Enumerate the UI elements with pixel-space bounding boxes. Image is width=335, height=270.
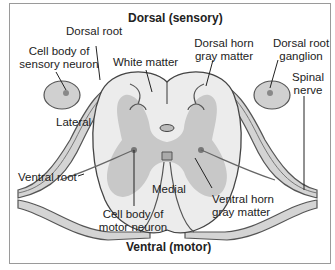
central-canal [160, 125, 174, 132]
label-spinal-nerve-2: nerve [288, 84, 328, 97]
label-dorsal-horn-2: gray matter [186, 50, 262, 63]
label-ventral-horn-1: Ventral horn [212, 193, 274, 206]
label-dorsal-horn-1: Dorsal horn [186, 37, 262, 50]
label-medial: Medial [152, 183, 186, 196]
label-dorsal-root: Dorsal root [66, 25, 122, 38]
left-sensory-cell-body [63, 90, 69, 96]
label-white-matter: White matter [113, 56, 178, 69]
label-spinal-nerve-1: Spinal [288, 71, 328, 84]
ventral-title: Ventral (motor) [126, 241, 211, 254]
left-ganglion [44, 81, 80, 109]
label-ventral-horn-2: gray matter [212, 206, 270, 219]
label-drg-2: ganglion [270, 50, 332, 63]
label-cell-body-sensory-2: sensory neuron [16, 58, 102, 71]
label-cell-body-sensory-1: Cell body of [24, 45, 94, 58]
label-drg-1: Dorsal root [270, 37, 332, 50]
label-ventral-root: Ventral root [18, 171, 77, 184]
label-lateral: Lateral [56, 116, 91, 129]
dorsal-title: Dorsal (sensory) [128, 12, 223, 25]
label-cell-body-motor-1: Cell body of [95, 208, 171, 221]
label-cell-body-motor-2: motor neuron [95, 221, 171, 234]
